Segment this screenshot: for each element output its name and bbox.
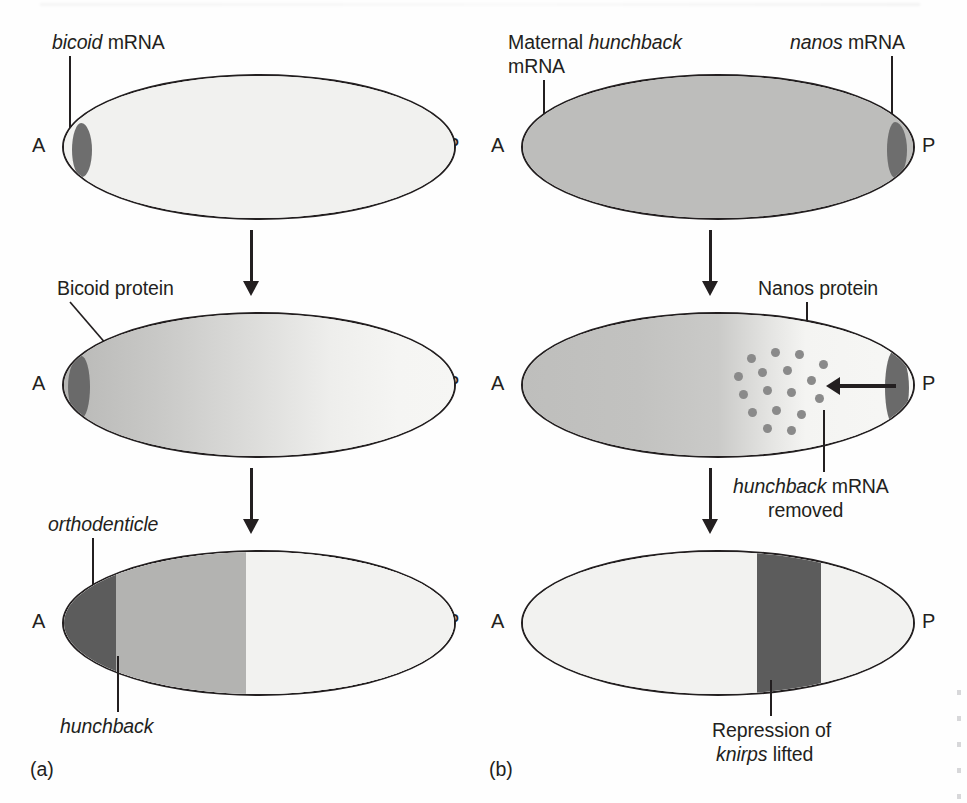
arrow-shaft	[250, 468, 253, 521]
embryo-a-stage2	[62, 312, 456, 458]
arrow-shaft	[250, 230, 253, 283]
axis-posterior-b1: P	[922, 134, 935, 157]
nanos-dot	[763, 386, 772, 395]
scan-artifact-top	[40, 3, 920, 6]
label-knirps-italic: knirps	[716, 743, 767, 765]
leader-hunchback-a	[117, 656, 119, 712]
label-repression-of: Repression of	[712, 718, 831, 742]
band-a3-posterior	[246, 550, 456, 696]
label-nanos-mrna: nanos mRNA	[790, 30, 905, 54]
scan-artifact-right-edge	[957, 690, 961, 800]
nanos-dot	[772, 406, 781, 415]
arrow-shaft	[709, 230, 712, 283]
panel-label-b: (b)	[489, 758, 513, 781]
label-bicoid-protein: Bicoid protein	[57, 276, 174, 300]
nanos-dot	[783, 366, 792, 375]
nanos-dot	[734, 372, 743, 381]
arrow-head	[243, 519, 259, 534]
axis-posterior-b3: P	[922, 610, 935, 633]
nanos-dot	[748, 408, 757, 417]
label-hunchback-mrna-removed: hunchback mRNA	[733, 474, 889, 498]
label-bicoid-mrna: bicoid mRNA	[52, 30, 165, 54]
arrow-a-stage2-to-3	[243, 468, 259, 534]
axis-anterior-b1: A	[491, 134, 504, 157]
label-orthodenticle-text: orthodenticle	[48, 513, 158, 535]
axis-anterior-b3: A	[491, 610, 504, 633]
label-orthodenticle: orthodenticle	[48, 512, 158, 536]
nanos-dot	[797, 410, 806, 419]
axis-anterior-a3: A	[32, 610, 45, 633]
nanos-dot	[758, 368, 767, 377]
nanos-dot	[815, 394, 824, 403]
figure-root: bicoid mRNA A P Bicoid protein A P ortho…	[0, 0, 967, 803]
nanos-dot	[819, 360, 828, 369]
nanos-dot	[747, 354, 756, 363]
label-hb-removed-italic: hunchback	[733, 475, 826, 497]
arrow-shaft	[709, 468, 712, 521]
label-bicoid-mrna-roman: mRNA	[102, 31, 164, 53]
arrow-b-stage1-to-2	[702, 230, 718, 296]
label-nanos-mrna-italic: nanos	[790, 31, 843, 53]
embryo-a-stage1	[62, 74, 456, 220]
axis-anterior-a2: A	[32, 372, 45, 395]
label-maternal-hunchback-mrna: Maternal hunchback	[508, 30, 682, 54]
band-orthodenticle	[62, 550, 116, 696]
arrow-nanos-diffusion	[826, 376, 896, 396]
embryo-b-stage3	[521, 550, 915, 696]
label-hb-removed-roman: mRNA	[826, 475, 888, 497]
label-hunchback-a: hunchback	[60, 714, 153, 738]
nanos-dot	[807, 376, 816, 385]
arrow-head	[826, 377, 840, 395]
label-maternal-hunchback-mrna-line2: mRNA	[508, 54, 565, 78]
axis-anterior-a1: A	[32, 134, 45, 157]
label-hunchback-mrna-removed-line2: removed	[768, 498, 843, 522]
embryo-a-stage1-cytoplasm	[62, 74, 456, 220]
label-knirps-lifted: knirps lifted	[716, 742, 813, 766]
embryo-a-stage3	[62, 550, 456, 696]
label-maternal-roman: Maternal	[508, 31, 588, 53]
arrow-b-stage2-to-3	[702, 468, 718, 534]
label-maternal-italic: hunchback	[588, 31, 681, 53]
leader-knirps	[770, 680, 772, 716]
label-knirps-roman: lifted	[767, 743, 813, 765]
embryo-b-stage1	[521, 74, 915, 220]
nanos-dot	[763, 424, 772, 433]
arrow-shaft	[839, 384, 896, 388]
leader-hunchback-removed	[823, 410, 825, 472]
axis-anterior-b2: A	[491, 372, 504, 395]
nanos-dot	[787, 426, 796, 435]
embryo-b-stage1-cytoplasm	[521, 74, 915, 220]
label-hunchback-a-text: hunchback	[60, 715, 153, 737]
arrow-head	[702, 281, 718, 296]
label-nanos-protein: Nanos protein	[758, 276, 878, 300]
band-knirps-repression-lifted	[757, 550, 821, 696]
nanos-dot	[795, 350, 804, 359]
label-bicoid-mrna-italic: bicoid	[52, 31, 102, 53]
arrow-head	[243, 281, 259, 296]
nanos-dot	[787, 388, 796, 397]
band-hunchback	[116, 550, 246, 696]
arrow-head	[702, 519, 718, 534]
bicoid-mrna-blob	[72, 123, 92, 177]
embryo-a-stage2-gradient	[62, 312, 456, 458]
arrow-a-stage1-to-2	[243, 230, 259, 296]
label-nanos-mrna-roman: mRNA	[843, 31, 905, 53]
axis-posterior-b2: P	[922, 372, 935, 395]
nanos-dot	[771, 348, 780, 357]
bicoid-residual-blob	[68, 356, 90, 418]
embryo-b-stage3-base	[521, 550, 915, 696]
panel-label-a: (a)	[30, 758, 54, 781]
nanos-dot	[739, 390, 748, 399]
